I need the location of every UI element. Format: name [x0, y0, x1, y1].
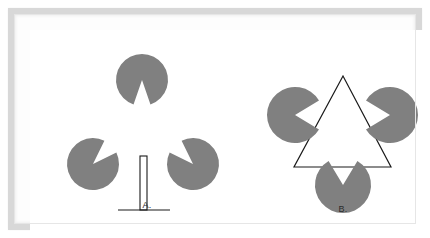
plate-canvas: A. B. [30, 30, 430, 238]
right-disc [167, 138, 219, 190]
panel-a-label: A. [117, 200, 177, 210]
panel-a: A. [30, 30, 230, 238]
plate-frame: A. B. [8, 8, 422, 230]
outlined-triangle [294, 76, 391, 167]
top-disc [116, 54, 168, 105]
panel-b: B. [230, 30, 430, 238]
left-disc [267, 87, 319, 143]
kanizsa-figure-plate: A. B. [0, 0, 430, 238]
panel-b-label: B. [313, 204, 373, 214]
panel-b-discs [267, 87, 418, 213]
right-disc [366, 87, 418, 143]
left-disc [67, 138, 119, 190]
